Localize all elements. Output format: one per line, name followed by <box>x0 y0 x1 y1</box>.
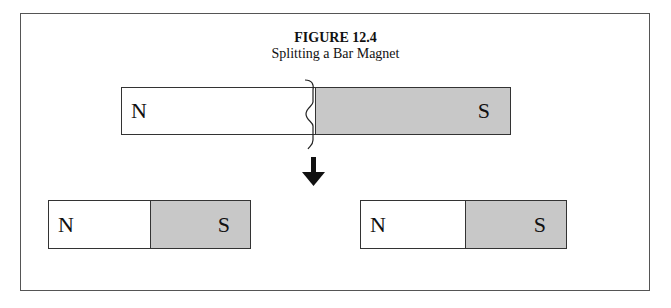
down-arrow-icon <box>302 157 325 186</box>
crack-line-icon <box>305 80 313 149</box>
annotations-layer <box>0 0 671 308</box>
left-piece-magnet: N S <box>48 200 251 249</box>
south-label: S <box>534 212 546 238</box>
north-label: N <box>370 212 386 238</box>
south-pole: S <box>150 201 250 248</box>
south-label: S <box>218 212 230 238</box>
north-pole: N <box>49 201 150 248</box>
south-pole: S <box>465 201 566 248</box>
north-pole: N <box>361 201 465 248</box>
north-label: N <box>58 212 74 238</box>
right-piece-magnet: N S <box>360 200 567 249</box>
